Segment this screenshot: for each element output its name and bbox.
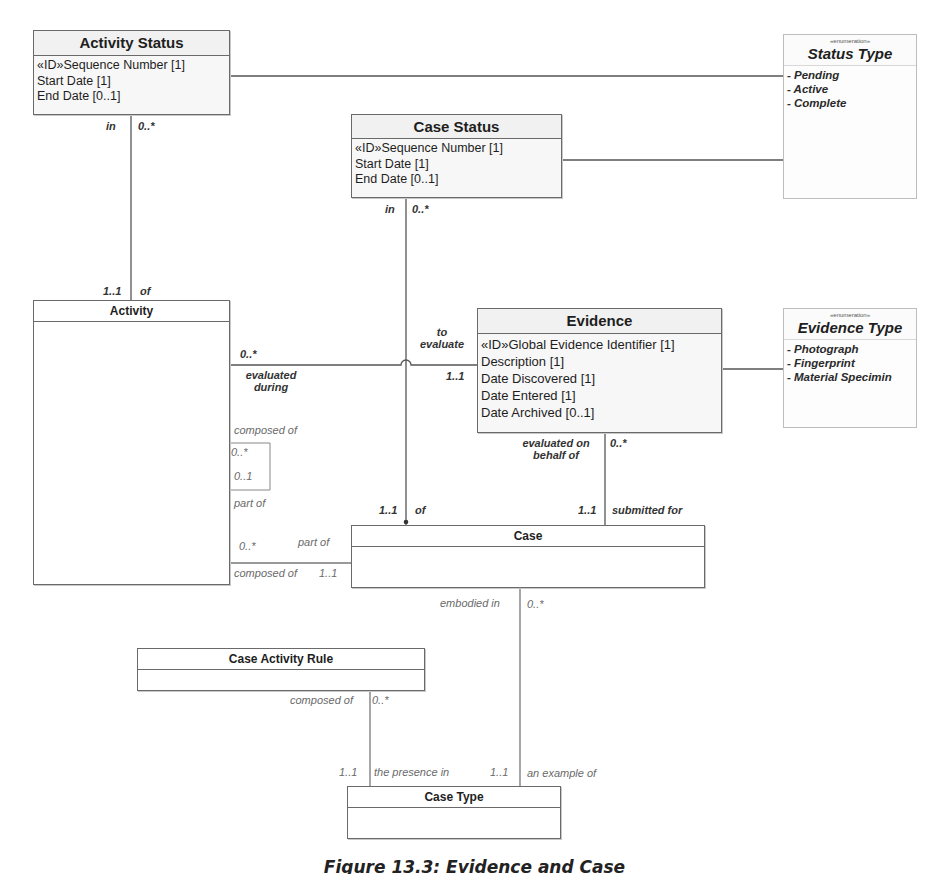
multiplicity-label: 0..* [231,446,248,458]
multiplicity-label: 0..* [372,694,389,706]
enum-name: Status Type [784,45,916,65]
role-label: the presence in [374,766,449,778]
literal: - Active [787,82,913,96]
attribute: End Date [0..1] [37,89,226,105]
role-label: part of [298,536,329,548]
attribute: Date Archived [0..1] [481,404,718,421]
role-label: submitted for [612,504,682,516]
class-name: Evidence [478,309,721,334]
enum-header: «enumeration» Status Type [784,35,916,66]
class-case-activity-rule[interactable]: Case Activity Rule [137,648,425,691]
class-activity[interactable]: Activity [33,300,230,585]
role-label: an example of [527,767,596,779]
literal-list: - Photograph - Fingerprint - Material Sp… [784,340,916,386]
multiplicity-label: 1..1 [319,567,337,579]
multiplicity-label: 1..1 [339,766,357,778]
role-label: composed of [290,694,353,706]
attribute: Start Date [1] [37,74,226,90]
class-name: Activity [34,301,229,322]
role-label: composed of [234,567,297,579]
role-label: composed of [234,424,297,436]
multiplicity-label: 0..* [240,348,257,360]
junction-dot [404,520,409,525]
class-activity-status[interactable]: Activity Status «ID»Sequence Number [1] … [33,30,230,115]
role-label: evaluated on behalf of [512,437,600,461]
attribute: Date Entered [1] [481,387,718,404]
stereotype-label: «enumeration» [784,35,916,45]
role-label: part of [234,497,265,509]
literal: - Pending [787,68,913,82]
class-name: Case [352,526,704,547]
role-label: to evaluate [414,326,470,350]
attribute-list: «ID»Sequence Number [1] Start Date [1] E… [352,139,561,190]
multiplicity-label: 1..1 [103,285,121,297]
multiplicity-label: 1..1 [578,504,596,516]
multiplicity-label: 1..1 [490,766,508,778]
role-label: embodied in [440,597,500,609]
literal: - Photograph [787,342,913,356]
attribute: «ID»Sequence Number [1] [355,141,558,157]
class-case-status[interactable]: Case Status «ID»Sequence Number [1] Star… [351,114,562,198]
stereotype-label: «enumeration» [784,309,916,319]
attribute-list: «ID»Sequence Number [1] Start Date [1] E… [34,56,229,107]
literal: - Material Specimin [787,370,913,384]
role-label: of [415,504,425,516]
multiplicity-label: 0..* [412,203,429,215]
multiplicity-label: 1..1 [379,504,397,516]
uml-class-diagram: Activity Status «ID»Sequence Number [1] … [0,0,949,874]
multiplicity-label: 0..* [138,120,155,132]
role-label: of [140,285,150,297]
attribute: Date Discovered [1] [481,370,718,387]
literal: - Complete [787,96,913,110]
attribute-list: «ID»Global Evidence Identifier [1] Descr… [478,334,721,423]
attribute: «ID»Global Evidence Identifier [1] [481,336,718,353]
class-name: Case Status [352,115,561,139]
multiplicity-label: 0..* [239,540,256,552]
role-label: evaluated during [236,369,306,393]
class-case-type[interactable]: Case Type [347,786,561,839]
class-name: Case Activity Rule [138,649,424,670]
figure-caption: Figure 13.3: Evidence and Case [0,857,949,874]
class-name: Case Type [348,787,560,808]
literal: - Fingerprint [787,356,913,370]
role-label: in [106,120,116,132]
role-label: in [385,203,395,215]
multiplicity-label: 0..* [610,437,627,449]
enum-name: Evidence Type [784,319,916,339]
multiplicity-label: 0..1 [234,470,252,482]
class-evidence[interactable]: Evidence «ID»Global Evidence Identifier … [477,308,722,433]
attribute: Start Date [1] [355,157,558,173]
literal-list: - Pending - Active - Complete [784,66,916,112]
class-name: Activity Status [34,31,229,56]
attribute: Description [1] [481,353,718,370]
attribute: End Date [0..1] [355,172,558,188]
enum-header: «enumeration» Evidence Type [784,309,916,340]
enum-evidence-type[interactable]: «enumeration» Evidence Type - Photograph… [783,308,917,428]
multiplicity-label: 0..* [527,598,544,610]
multiplicity-label: 1..1 [446,370,464,382]
enum-status-type[interactable]: «enumeration» Status Type - Pending - Ac… [783,34,917,199]
attribute: «ID»Sequence Number [1] [37,58,226,74]
class-case[interactable]: Case [351,525,705,588]
